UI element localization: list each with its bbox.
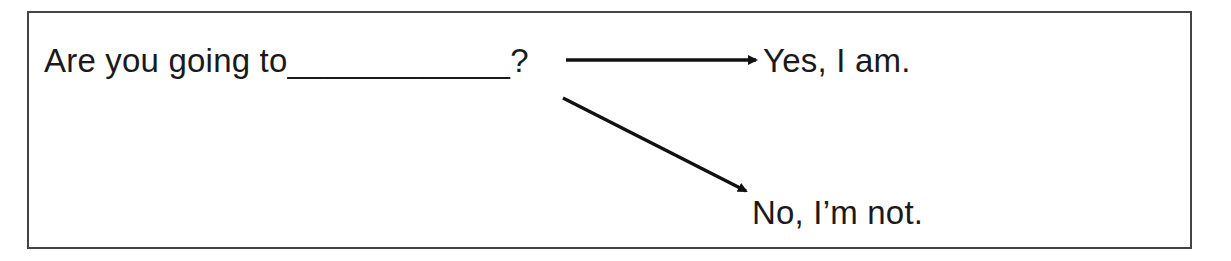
answer-yes: Yes, I am. xyxy=(763,44,911,77)
answer-no: No, I’m not. xyxy=(752,196,923,229)
question-text: Are you going to____________? xyxy=(44,44,529,77)
